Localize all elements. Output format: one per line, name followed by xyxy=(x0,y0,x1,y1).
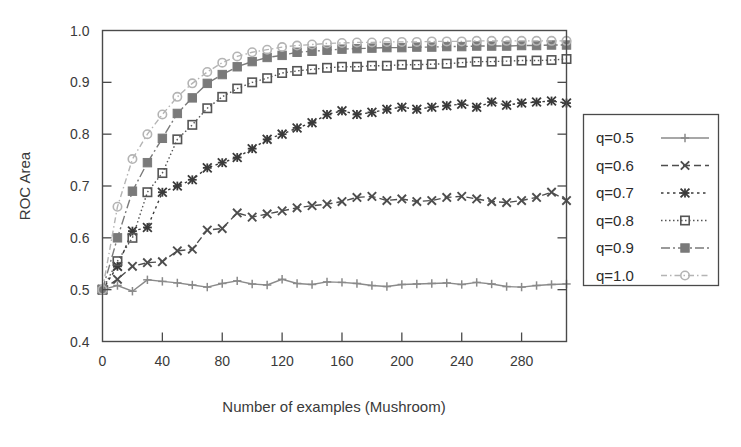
x-tick-label: 80 xyxy=(214,353,230,369)
legend-label-q-1-0: q=1.0 xyxy=(596,267,634,284)
x-tick-label: 240 xyxy=(450,353,474,369)
x-tick-label: 200 xyxy=(390,353,414,369)
y-tick-label: 0.7 xyxy=(70,178,90,194)
y-tick-label: 1.0 xyxy=(70,23,90,39)
x-tick-label: 160 xyxy=(330,353,354,369)
x-tick-label: 40 xyxy=(155,353,171,369)
x-tick-label: 120 xyxy=(270,353,294,369)
y-axis-label: ROC Area xyxy=(16,151,33,220)
legend-label-q-0-8: q=0.8 xyxy=(596,212,634,229)
legend-label-q-0-7: q=0.7 xyxy=(596,184,634,201)
y-tick-label: 0.6 xyxy=(70,230,90,246)
chart-figure: 0.40.50.60.70.80.91.0 040801201602002402… xyxy=(0,0,741,447)
legend-label-q-0-6: q=0.6 xyxy=(596,157,634,174)
x-tick-label: 280 xyxy=(510,353,534,369)
legend-label-q-0-5: q=0.5 xyxy=(596,129,634,146)
roc-area-line-chart: 0.40.50.60.70.80.91.0 040801201602002402… xyxy=(0,0,741,447)
y-tick-label: 0.5 xyxy=(70,282,90,298)
y-tick-label: 0.4 xyxy=(70,334,90,350)
x-tick-label: 0 xyxy=(99,353,107,369)
y-tick-label: 0.9 xyxy=(70,74,90,90)
y-tick-label: 0.8 xyxy=(70,126,90,142)
legend-label-q-0-9: q=0.9 xyxy=(596,239,634,256)
x-axis-label: Number of examples (Mushroom) xyxy=(222,398,445,415)
